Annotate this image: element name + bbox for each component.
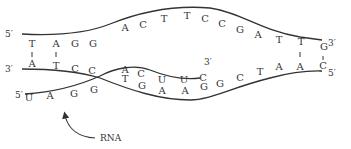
rna-3prime-label: 3′: [204, 57, 212, 67]
bottom-strand-base: C: [88, 65, 96, 76]
top-strand-base: G: [89, 38, 97, 49]
bottom-strand-base: A: [274, 61, 283, 72]
bottom-strand-base: C: [71, 63, 79, 74]
rna-base: A: [120, 64, 129, 75]
rna-base: U: [180, 74, 188, 85]
bottom-strand-base: A: [27, 58, 36, 69]
dna-bottom-strand-backbone: [22, 69, 322, 100]
top-strand-base: G: [71, 38, 79, 49]
rna-base: C: [137, 68, 145, 79]
bottom-strand-base: T: [53, 60, 60, 71]
rna-base: A: [45, 90, 54, 101]
bottom-strand-base: A: [295, 61, 304, 72]
rna-base: G: [70, 88, 78, 99]
bottom-strand-5prime-label: 5′: [328, 68, 336, 78]
rna-base: C: [199, 72, 207, 83]
top-strand-base: G: [320, 41, 328, 52]
top-strand-bases: TAGGACTTCCGATTG: [29, 10, 328, 52]
bottom-strand-3prime-label: 3′: [5, 64, 13, 74]
top-strand-5prime-label: 5′: [5, 29, 13, 39]
top-strand-base: C: [218, 18, 226, 29]
top-strand-base: T: [161, 13, 168, 24]
bottom-strand-base: C: [236, 72, 244, 83]
bottom-strand-base: C: [319, 60, 327, 71]
top-strand-base: A: [51, 38, 60, 49]
rna-label: RNA: [100, 133, 122, 143]
bottom-strand-base: A: [180, 85, 189, 96]
top-strand-base: T: [276, 34, 283, 45]
bottom-strand-base: G: [216, 78, 224, 89]
top-strand-base: C: [201, 13, 209, 24]
top-strand-base: A: [120, 22, 129, 33]
bottom-strand-base: G: [138, 80, 146, 91]
rna-base: U: [25, 92, 33, 103]
rna-5prime-label: 5′: [15, 90, 23, 100]
rna-arrow: [65, 115, 95, 138]
base-pair-ticks: [32, 52, 323, 60]
top-strand-3prime-label: 3′: [328, 38, 336, 48]
top-strand-base: T: [184, 10, 191, 21]
top-strand-base: A: [253, 29, 262, 40]
bottom-strand-base: A: [157, 85, 166, 96]
rna-base: G: [90, 84, 98, 95]
transcription-diagram: 5′ 3′ 3′ 5′ 5′ 3′ RNA TAGGACTTCCGATTG AT…: [0, 0, 351, 149]
top-strand-base: C: [139, 19, 147, 30]
top-strand-base: G: [236, 24, 244, 35]
rna-base: U: [158, 74, 166, 85]
top-strand-base: T: [298, 36, 305, 47]
top-strand-base: T: [29, 38, 36, 49]
bottom-strand-base: T: [257, 66, 264, 77]
